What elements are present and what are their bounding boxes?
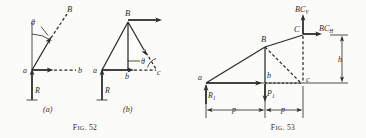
label-theta-panel-a: θ <box>31 18 35 27</box>
label-h-figure-53: h <box>338 55 342 64</box>
label-a-figure-53: a <box>198 73 202 82</box>
label-B-panel-a: B <box>67 4 72 14</box>
label-theta-panel-b: θ <box>141 57 145 66</box>
label-R1-figure-53: R1 <box>207 91 216 101</box>
force-BCV-figure-53 <box>301 14 306 34</box>
figure-plate-page: θ B b a R (a) <box>0 0 366 138</box>
label-b-panel-b: b <box>125 72 129 81</box>
label-c-panel-b: c <box>157 68 161 77</box>
label-BCH-figure-53: BCH <box>319 24 334 34</box>
vector-ac-panel-b <box>102 68 156 73</box>
figure-52-caption: FIG. 52 <box>73 123 97 132</box>
label-b-figure-53: b <box>267 71 271 80</box>
vector-ab-panel-a <box>32 68 76 73</box>
label-B-figure-53: B <box>261 34 266 44</box>
label-p-left-figure-53: p <box>231 105 236 114</box>
label-a-panel-b: a <box>93 66 97 75</box>
figure-52-panel-a: θ B b a R (a) <box>23 4 82 114</box>
member-aB-figure-53 <box>206 47 265 83</box>
vector-aB-panel-a <box>32 14 67 70</box>
panel-label-b: (b) <box>123 105 133 114</box>
label-BCV-figure-53: BCV <box>295 5 309 15</box>
member-aB-panel-b <box>102 22 128 70</box>
dimension-span-figure-53 <box>206 85 303 118</box>
label-p-right-figure-53: p <box>280 105 285 114</box>
label-B-panel-b: B <box>125 8 130 18</box>
label-P1-figure-53: P1 <box>266 89 275 99</box>
figure-52-panel-b: θ B a b c R (b) <box>93 8 162 114</box>
vector-R-panel-a <box>27 69 38 101</box>
figure-plate-canvas: θ B b a R (a) <box>0 0 366 138</box>
label-C-figure-53: C <box>294 24 300 34</box>
member-ab-figure-53 <box>206 81 262 86</box>
vector-R-panel-b <box>97 69 108 101</box>
label-R-panel-b: R <box>104 86 110 95</box>
label-a-panel-a: a <box>23 66 27 75</box>
member-BC-figure-53 <box>265 35 303 47</box>
panel-label-a: (a) <box>43 105 53 114</box>
label-R-panel-a: R <box>34 86 40 95</box>
vector-B-horizontal-panel-b <box>128 18 162 23</box>
figure-53: a B b c C BCV BCH R1 P1 p p h <box>198 5 348 118</box>
label-b-panel-a: b <box>78 66 82 75</box>
label-c-figure-53: c <box>306 75 310 84</box>
figure-53-caption: FIG. 53 <box>271 123 295 132</box>
